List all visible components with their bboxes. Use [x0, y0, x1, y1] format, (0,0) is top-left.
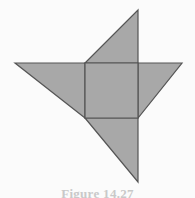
pinwheel-figure-svg: [0, 0, 195, 198]
figure-caption-label: Figure 14.27: [0, 187, 195, 198]
figure-caption-strip: Figure 14.27: [0, 187, 195, 198]
central-square: [85, 63, 138, 118]
figure-container: Figure 14.27: [0, 0, 195, 198]
